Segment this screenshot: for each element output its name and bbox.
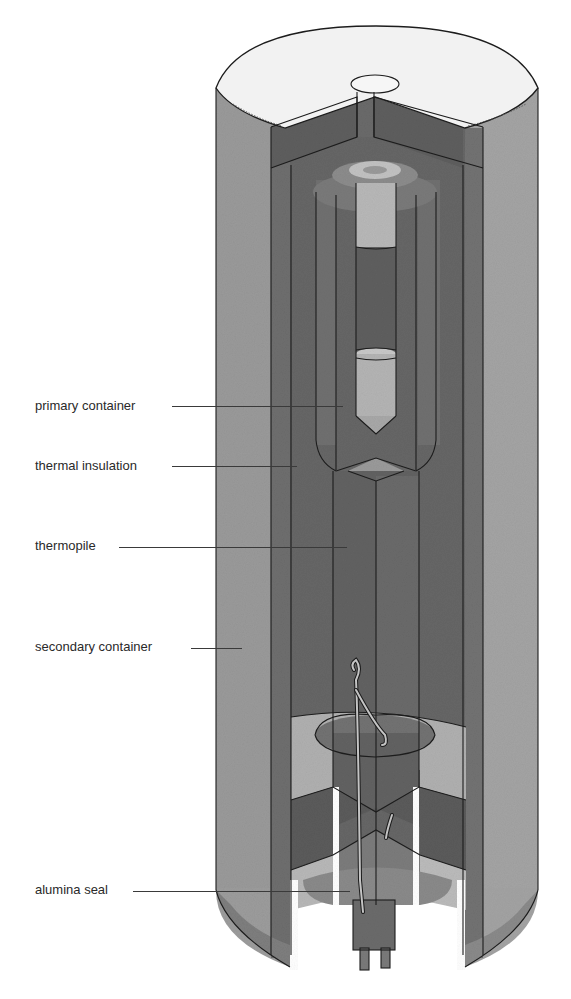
leader-secondary-container	[191, 648, 242, 649]
label-secondary-container: secondary container	[35, 639, 152, 654]
leader-alumina-seal	[133, 891, 350, 892]
leader-thermopile	[119, 547, 347, 548]
leader-primary-container	[172, 406, 343, 407]
leader-thermal-insulation	[172, 466, 297, 467]
label-alumina-seal: alumina seal	[35, 882, 108, 897]
label-thermal-insulation: thermal insulation	[35, 458, 137, 473]
calorimeter-cutaway-diagram	[0, 0, 571, 999]
label-thermopile: thermopile	[35, 538, 96, 553]
label-primary-container: primary container	[35, 398, 135, 413]
